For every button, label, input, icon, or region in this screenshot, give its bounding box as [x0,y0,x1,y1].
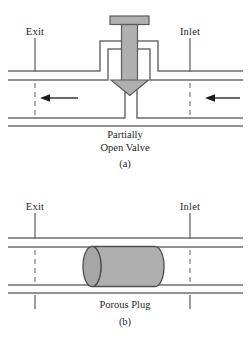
panel-b-group [8,213,243,309]
panel-b-caption: Porous Plug [50,299,200,312]
panel-a-caption: Partially Open Valve [55,129,195,155]
panel-b-exit-label: Exit [26,201,44,213]
panel-a-id: (a) [119,158,131,169]
figure-root: Exit Inlet Partially Open Valve (a) Exit… [0,0,251,338]
figure-svg [0,0,251,338]
panel-a-inlet-label: Inlet [180,26,200,38]
valve-plug-icon [110,16,149,96]
panel-b-id: (b) [119,316,131,327]
panel-a-flow-arrow-left [40,94,78,102]
panel-a-flow-arrow-right [205,94,240,102]
panel-a-exit-label: Exit [26,26,44,38]
panel-b-inlet-label: Inlet [180,201,200,213]
porous-plug-cylinder [83,247,164,287]
